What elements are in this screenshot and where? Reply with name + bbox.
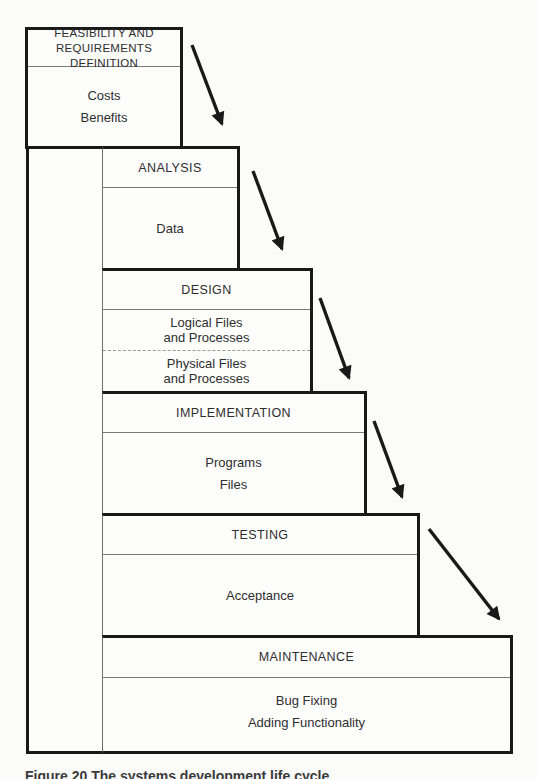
stage-feasibility-box: FEASIBILITY AND REQUIREMENTS DEFINITION … [25,27,183,149]
arrow-analysis-to-design-icon [253,171,282,249]
figure-caption: Figure 20 The systems development life c… [25,768,505,779]
stage-title: DESIGN [103,271,310,310]
arrow-testing-to-maintenance-icon [429,529,499,619]
stage-item-line: Physical Files [167,356,246,371]
stage-title: IMPLEMENTATION [103,394,364,433]
stage-item: Benefits [81,110,128,125]
stage-title-line: FEASIBILITY AND [54,26,154,41]
stage-title: TESTING [103,516,417,555]
stage-analysis-box: ANALYSIS Data [102,146,240,268]
stage-item: Programs [205,455,261,470]
waterfall-life-cycle-diagram: FEASIBILITY AND REQUIREMENTS DEFINITION … [0,0,537,779]
stage-item: Data [156,221,183,236]
stage-title: ANALYSIS [103,149,237,188]
staircase-left-strip [26,146,102,754]
stage-body: Costs Benefits [28,67,180,146]
stage-maintenance-box: MAINTENANCE Bug Fixing Adding Functional… [102,635,513,754]
stage-body: Acceptance [103,555,417,635]
stage-implementation-box: IMPLEMENTATION Programs Files [102,391,367,513]
stage-subrow-physical: Physical Files and Processes [103,351,310,391]
stage-testing-box: TESTING Acceptance [102,513,420,635]
stage-title: MAINTENANCE [103,638,510,678]
stage-title: FEASIBILITY AND REQUIREMENTS DEFINITION [28,30,180,67]
stage-body: Bug Fixing Adding Functionality [103,678,510,751]
stage-subrow-logical: Logical Files and Processes [103,310,310,351]
stage-item: Bug Fixing [276,693,337,708]
stage-item: Costs [87,88,120,103]
stage-item-line: Logical Files [170,315,242,330]
arrow-design-to-implementation-icon [320,298,349,378]
stage-design-box: DESIGN Logical Files and Processes Physi… [102,268,313,391]
arrow-feasibility-to-analysis-icon [192,45,222,124]
stage-item: Adding Functionality [248,715,365,730]
stage-body: Data [103,188,237,268]
stage-item: Files [220,477,247,492]
stage-title-line: REQUIREMENTS DEFINITION [28,41,180,71]
stage-item: Acceptance [226,588,294,603]
stage-body: Programs Files [103,433,364,513]
stage-item-line: and Processes [164,371,250,386]
arrow-implementation-to-testing-icon [374,421,402,497]
stage-item-line: and Processes [164,330,250,345]
